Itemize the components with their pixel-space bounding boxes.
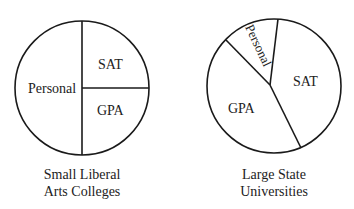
caption-line-1: Small Liberal bbox=[22, 166, 142, 183]
label-personal: Personal bbox=[28, 81, 76, 96]
label-gpa: GPA bbox=[228, 101, 256, 116]
label-sat: SAT bbox=[293, 74, 318, 89]
caption-line-2: Arts Colleges bbox=[22, 183, 142, 200]
label-sat: SAT bbox=[98, 57, 123, 72]
caption-large-state: Large State Universities bbox=[214, 166, 334, 200]
caption-small-liberal-arts: Small Liberal Arts Colleges bbox=[22, 166, 142, 200]
divider-bottom bbox=[270, 85, 301, 148]
pie-outline bbox=[207, 19, 341, 153]
pie-large-state bbox=[207, 19, 341, 153]
caption-line-2: Universities bbox=[214, 183, 334, 200]
divider-top bbox=[270, 19, 278, 85]
label-gpa: GPA bbox=[97, 103, 125, 118]
caption-line-1: Large State bbox=[214, 166, 334, 183]
